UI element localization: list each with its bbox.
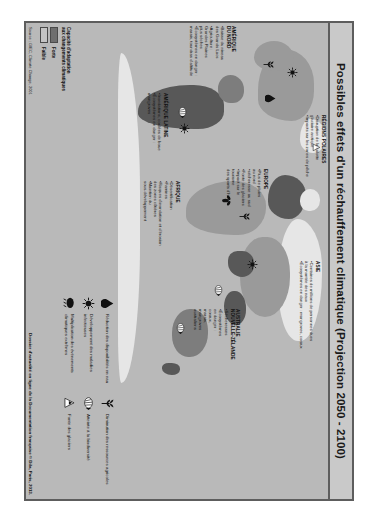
callout-heading: AMÉRIQUE LATINE	[163, 93, 168, 167]
glacier-icon	[63, 397, 76, 410]
callout-amerique-latine: AMÉRIQUE LATINE Inondations, coulées de …	[146, 93, 168, 167]
map-legend: Réduction des disponibilités en eau Déve…	[36, 297, 114, 493]
callout-bullet: Fonte des glaciers	[241, 169, 246, 217]
legend-column-left: Réduction des disponibilités en eau Déve…	[57, 297, 114, 393]
callout-bullet: Famines	[164, 181, 169, 251]
callout-bullets: Plus de pluies au nord sécheresse au sud…	[226, 169, 262, 217]
callout-heading: EUROPE	[263, 169, 268, 217]
legend-item: Multiplication des événements climatique…	[63, 297, 76, 393]
world-map: RÉGIONS POLAIRES Disruption de la calott…	[26, 23, 328, 499]
callout-bullets: Centaines de millions de personnes dues …	[299, 261, 314, 357]
legend-label: Développement des maladies infectieuses	[83, 314, 93, 393]
callout-bullet: Baisse du niveau des Grands Lacs	[214, 26, 224, 82]
mosquito-icon	[82, 297, 95, 310]
callout-bullets: Sécheresses Écosystèmes en danger : cora…	[193, 309, 229, 373]
legend-label: Réduction des disponibilités en eau	[105, 314, 110, 383]
adaptation-capacity-key: Capacité d'adaptation aux changements cl…	[38, 27, 71, 119]
callout-bullets: Désertification Famines Risques d'inonda…	[143, 181, 174, 251]
legend-item: Réduction des disponibilités en eau	[101, 297, 114, 393]
swatch-forte	[50, 27, 58, 43]
legend-label: Multiplication des événements climatique…	[64, 314, 74, 393]
source-credit: Source : GIEC, Climate Change, 2001	[28, 27, 33, 95]
callout-regions-polaires: RÉGIONS POLAIRES Disruption de la calott…	[304, 115, 326, 177]
callout-heading: AFRIQUE	[175, 181, 180, 251]
callout-australie-nouvelle-zelande: AUSTRALIE NOUVELLE-ZÉLANDE Sécheresses É…	[193, 309, 240, 373]
swatch-faible	[40, 27, 48, 43]
callout-bullet: Plus de pluies au nord	[252, 169, 262, 217]
coral-fish-icon	[82, 397, 95, 410]
coral-fish-icon	[177, 107, 188, 118]
callout-bullets: Baisse du niveau des Grands Lacs Agricul…	[189, 26, 225, 82]
callout-bullet: Désertification	[169, 181, 174, 251]
landmass-scandinavia	[300, 189, 320, 211]
adaptation-heading: Capacité d'adaptation aux changements cl…	[61, 27, 71, 119]
adaptation-level: Faible	[40, 27, 48, 119]
legend-label: Diminution des ressources agricoles	[105, 414, 110, 485]
callout-bullet: Sécheresses	[224, 309, 229, 373]
adaptation-level: Forte	[50, 27, 58, 119]
storm-cloud-icon	[247, 259, 258, 270]
storm-cloud-icon	[179, 123, 190, 134]
callout-bullet: Écosystèmes en danger : marais, toundras…	[189, 26, 199, 82]
rotated-poster-wrapper: Possibles effets d'un réchauffement clim…	[0, 0, 378, 522]
legend-item: Développement des maladies infectieuses	[82, 297, 95, 393]
callout-heading: AUSTRALIE NOUVELLE-ZÉLANDE	[229, 309, 240, 373]
callout-heading: RÉGIONS POLAIRES	[321, 115, 326, 177]
screenshot-canvas: Possibles effets d'un réchauffement clim…	[0, 0, 378, 522]
callout-bullets: Inondations, coulées de boue Écosystèmes…	[147, 93, 162, 167]
callout-europe: EUROPE Plus de pluies au nord sécheresse…	[225, 169, 268, 217]
callout-bullets: Disruption de la calotte glaciaire arcti…	[305, 115, 320, 177]
adaptation-level-label: Faible	[42, 47, 47, 60]
legend-label: Fonte des glaciers	[67, 414, 72, 450]
landmass-new-zealand	[162, 363, 180, 375]
callout-bullet: Maintien du sous-développement	[143, 181, 153, 251]
callout-bullet: Impacts sur les zones de pêche	[305, 115, 310, 177]
wheat-icon	[101, 397, 114, 410]
climate-warming-poster: Possibles effets d'un réchauffement clim…	[24, 21, 354, 501]
storm-cloud-icon	[287, 67, 298, 78]
callout-bullet: Agriculture : Grandes Plaines plus sèche…	[199, 26, 214, 82]
callout-amerique-du-nord: AMÉRIQUE DU NORD Baisse du niveau des Gr…	[188, 26, 236, 82]
page-title: Possibles effets d'un réchauffement clim…	[335, 63, 347, 459]
storm-cloud-icon	[63, 297, 76, 310]
legend-item: Fonte des glaciers	[63, 397, 76, 493]
callout-asie: ASIE Centaines de millions de personnes …	[298, 261, 320, 357]
callout-afrique: AFRIQUE Désertification Famines Risques …	[142, 181, 180, 251]
callout-bullet: Inondations, coulées de boue	[157, 93, 162, 167]
callout-bullet: Écosystèmes en danger : mangroves	[147, 93, 157, 167]
landmass-antarctica	[118, 53, 140, 383]
legend-column-right: Diminution des ressources agricoles Atte…	[57, 397, 114, 493]
coral-fish-icon	[175, 323, 186, 334]
callout-bullet: Écosystèmes en danger : coraux, marais, …	[193, 309, 223, 373]
callout-bullet: Impact sur le tourisme des sports d'hive…	[226, 169, 241, 217]
callout-bullet: Centaines de millions de personnes dues …	[304, 261, 314, 357]
adaptation-level-label: Forte	[52, 47, 57, 58]
legend-item: Atteinte à la biodiversité	[82, 397, 95, 493]
callout-bullet: Écosystèmes en danger : mangroves, corau…	[299, 261, 304, 357]
callout-bullet: Disruption de la calotte glaciaire arcti…	[310, 115, 320, 177]
callout-heading: ASIE	[315, 261, 320, 357]
legend-label: Atteinte à la biodiversité	[86, 414, 91, 461]
callout-bullet: sécheresse au sud	[247, 169, 252, 217]
document-credit: Dossier d'actualité en ligne de la Docum…	[28, 333, 33, 495]
callout-heading: AMÉRIQUE DU NORD	[225, 26, 236, 82]
water-drop-icon	[265, 93, 276, 104]
wheat-icon	[263, 59, 274, 70]
water-drop-icon	[101, 297, 114, 310]
poster-title-bar: Possibles effets d'un réchauffement clim…	[328, 23, 352, 499]
coral-fish-icon	[213, 285, 224, 296]
legend-item: Diminution des ressources agricoles	[101, 397, 114, 493]
landmass-asia	[240, 237, 290, 317]
callout-bullet: Risques d'inondation et d'érosion des zo…	[153, 181, 163, 251]
